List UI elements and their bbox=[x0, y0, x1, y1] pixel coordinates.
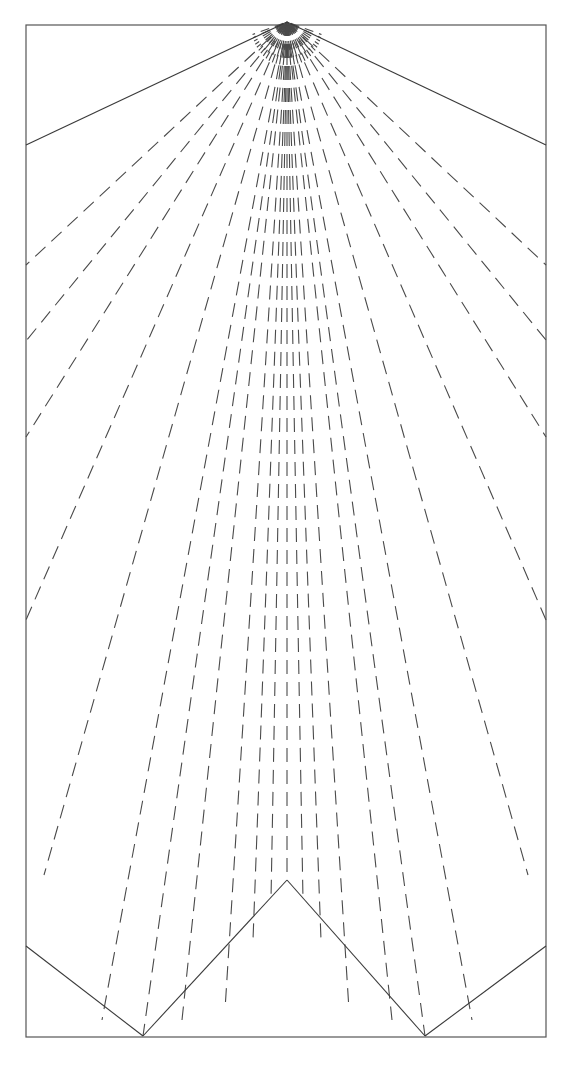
canvas-background bbox=[0, 0, 566, 1065]
diagram-root bbox=[0, 0, 566, 1065]
perspective-fan-diagram bbox=[0, 0, 566, 1065]
